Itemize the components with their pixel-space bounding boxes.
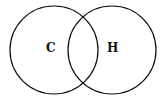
set-h-label: H xyxy=(107,42,118,54)
venn-diagram xyxy=(0,0,164,98)
set-c-label: C xyxy=(46,42,56,54)
